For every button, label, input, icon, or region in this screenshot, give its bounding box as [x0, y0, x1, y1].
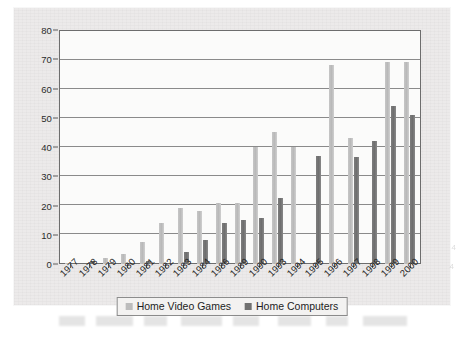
bar-group-1982 — [155, 30, 174, 264]
y-tick-label-10: 10 — [41, 229, 52, 240]
x-label-cell-1998: 1998 — [363, 269, 382, 303]
bar-1997-home-video-games — [348, 138, 353, 264]
bar-1995-home-computers — [316, 156, 321, 264]
x-label-cell-1978: 1978 — [80, 269, 99, 303]
x-label-cell-1979: 1979 — [99, 269, 118, 303]
bar-group-1986 — [212, 30, 231, 264]
y-tick-label-20: 20 — [41, 200, 52, 211]
y-tick-label-60: 60 — [41, 83, 52, 94]
y-tick-mark-60 — [53, 88, 58, 89]
bar-group-1981 — [136, 30, 155, 264]
bar-group-1984 — [193, 30, 212, 264]
legend-label-home-video-games: Home Video Games — [137, 300, 231, 312]
y-tick-label-30: 30 — [41, 171, 52, 182]
bar-group-1994 — [287, 30, 306, 264]
figure-panel: 01020304050607080 1977197819791980198119… — [14, 8, 450, 305]
margin-smudge-upper: 4 — [452, 243, 456, 252]
y-axis: 01020304050607080 — [28, 30, 58, 264]
bar-1997-home-computers — [354, 157, 359, 264]
bar-1994-home-video-games — [291, 147, 296, 264]
legend-entry-home-video-games: Home Video Games — [126, 300, 231, 312]
bar-group-1979 — [99, 30, 118, 264]
y-tick-mark-0 — [53, 264, 58, 265]
bar-group-1995 — [306, 30, 325, 264]
bar-group-1977 — [61, 30, 80, 264]
y-tick-mark-80 — [53, 30, 58, 31]
x-label-cell-1977: 1977 — [61, 269, 80, 303]
bar-1984-home-video-games — [197, 211, 202, 264]
y-tick-mark-50 — [53, 117, 58, 118]
bar-1999-home-computers — [391, 106, 396, 264]
bar-group-1996 — [325, 30, 344, 264]
scanned-page: 01020304050607080 1977197819791980198119… — [0, 0, 464, 339]
x-label-cell-1999: 1999 — [381, 269, 400, 303]
bar-group-2000 — [400, 30, 419, 264]
y-tick-label-40: 40 — [41, 142, 52, 153]
bar-group-1983 — [174, 30, 193, 264]
y-tick-mark-10 — [53, 234, 58, 235]
bar-1993-home-computers — [278, 198, 283, 264]
y-tick-label-80: 80 — [41, 25, 52, 36]
y-tick-mark-70 — [53, 59, 58, 60]
legend-entry-home-computers: Home Computers — [245, 300, 338, 312]
bar-group-1993 — [268, 30, 287, 264]
bar-1982-home-video-games — [159, 223, 164, 264]
legend-swatch-home-computers — [245, 303, 252, 310]
bar-group-1978 — [80, 30, 99, 264]
bar-group-1990 — [249, 30, 268, 264]
y-tick-mark-30 — [53, 176, 58, 177]
y-tick-label-0: 0 — [47, 259, 52, 270]
legend-swatch-home-video-games — [126, 303, 133, 310]
bar-group-1998 — [363, 30, 382, 264]
legend-label-home-computers: Home Computers — [256, 300, 338, 312]
chart-legend: Home Video Games Home Computers — [117, 297, 348, 316]
bar-1990-home-video-games — [253, 147, 258, 264]
margin-smudge-lower: 4 — [450, 262, 454, 271]
bar-2000-home-video-games — [404, 62, 409, 264]
bar-1993-home-video-games — [272, 132, 277, 264]
bar-1996-home-video-games — [329, 65, 334, 264]
bar-group-1999 — [381, 30, 400, 264]
bar-1998-home-computers — [372, 141, 377, 264]
y-tick-label-70: 70 — [41, 54, 52, 65]
y-tick-label-50: 50 — [41, 112, 52, 123]
bar-group-1989 — [231, 30, 250, 264]
bar-group-1980 — [118, 30, 137, 264]
bar-group-1997 — [344, 30, 363, 264]
scanned-body-text-artifact — [52, 316, 422, 326]
bar-1989-home-video-games — [235, 203, 240, 264]
bar-2000-home-computers — [410, 115, 415, 264]
bar-1999-home-video-games — [385, 62, 390, 264]
x-label-cell-2000: 2000 — [400, 269, 419, 303]
y-tick-mark-20 — [53, 205, 58, 206]
bar-1986-home-video-games — [216, 203, 221, 264]
bar-1983-home-video-games — [178, 208, 183, 264]
y-tick-mark-40 — [53, 147, 58, 148]
bars-layer — [59, 30, 421, 264]
